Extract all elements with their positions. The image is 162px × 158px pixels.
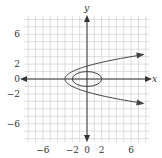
x-axis-right-arrow-icon — [145, 76, 152, 82]
x-axis-label: x — [152, 74, 157, 84]
y-tick-label: −2 — [7, 89, 20, 99]
x-tick-label: 2 — [99, 145, 105, 155]
tick-labels: −6−2026620−2−6 — [7, 29, 135, 155]
x-tick-label: 6 — [128, 145, 134, 155]
x-axis-left-arrow-icon — [20, 76, 27, 82]
y-tick-label: 6 — [14, 29, 20, 39]
coordinate-graph: −6−2026620−2−6 x y — [0, 0, 162, 158]
y-axis-label: y — [83, 3, 90, 13]
x-tick-label: 0 — [84, 145, 90, 155]
y-tick-label: 2 — [14, 59, 20, 69]
y-axis-up-arrow-icon — [84, 15, 90, 22]
parabola-lower-arrow-icon — [136, 100, 144, 106]
x-tick-label: −2 — [66, 145, 79, 155]
y-tick-label: 0 — [14, 74, 20, 84]
y-tick-label: −6 — [7, 119, 21, 129]
x-tick-label: −6 — [36, 145, 50, 155]
parabola-upper-arrow-icon — [136, 53, 144, 59]
